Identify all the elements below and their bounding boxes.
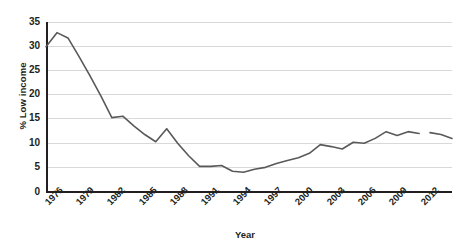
data-line-low-income-break-segment [430,133,452,139]
data-line-low-income [46,33,419,173]
gridlines [46,23,452,168]
plot-area [0,0,465,251]
line-chart-figure: % Low income Year 35 30 25 20 15 10 5 0 … [0,0,465,251]
